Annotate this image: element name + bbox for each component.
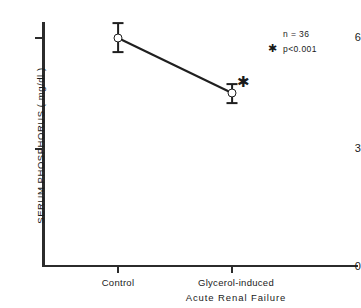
x-tick-mark-glycerol bbox=[231, 266, 233, 273]
y-tick-label-3: 3 bbox=[335, 142, 361, 154]
y-tick-label-0: 0 bbox=[335, 260, 361, 272]
x-tick-mark-control bbox=[117, 266, 119, 273]
x-category-label-glycerol: Glycerol-induced Acute Renal Failure bbox=[186, 277, 287, 303]
x-category-label-control-line1: Control bbox=[102, 277, 135, 288]
x-category-label-control: Control bbox=[102, 277, 135, 288]
data-point-marker-control bbox=[114, 34, 123, 43]
annotation-block: n = 36 ✱ p<0.001 bbox=[268, 26, 317, 56]
error-bar-stem-control bbox=[117, 23, 119, 52]
error-bar-cap-upper-glycerol bbox=[227, 83, 238, 85]
error-bar-cap-lower-glycerol bbox=[227, 102, 238, 104]
annotation-significance-text: p<0.001 bbox=[283, 44, 317, 54]
error-bar-stem-glycerol bbox=[231, 84, 233, 103]
significance-asterisk-icon: ✱ bbox=[237, 74, 250, 89]
x-axis-line bbox=[42, 265, 358, 268]
y-axis-title: SERUM PHOSPHORUS ( mg/dl ) bbox=[35, 38, 46, 253]
annotation-asterisk-icon: ✱ bbox=[268, 43, 283, 54]
serum-phosphorus-line-chart: 6 3 0 SERUM PHOSPHORUS ( mg/dl ) Control… bbox=[0, 0, 361, 308]
y-tick-label-6: 6 bbox=[335, 31, 361, 43]
x-category-label-glycerol-line1: Glycerol-induced bbox=[198, 277, 274, 288]
annotation-sample-size-text: n = 36 bbox=[283, 29, 309, 39]
annotation-sample-size: n = 36 bbox=[268, 26, 317, 41]
data-point-marker-glycerol bbox=[228, 89, 237, 98]
annotation-significance: ✱ p<0.001 bbox=[268, 41, 317, 56]
x-category-label-glycerol-line2: Acute Renal Failure bbox=[186, 292, 287, 303]
error-bar-cap-upper-control bbox=[113, 22, 124, 24]
error-bar-cap-lower-control bbox=[113, 51, 124, 53]
